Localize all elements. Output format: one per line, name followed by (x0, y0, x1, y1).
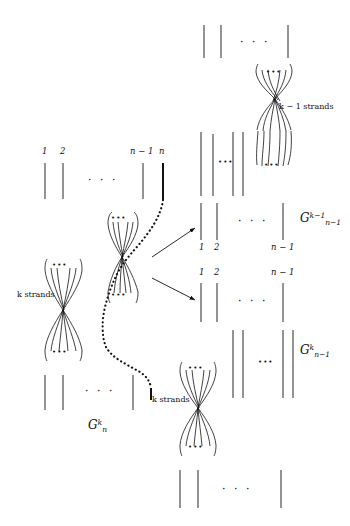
group-label-source-sub: n (102, 425, 107, 434)
index-label-n-minus-1-upper-right: n − 1 (271, 243, 294, 252)
group-label-target-lower-sub: n−1 (314, 350, 330, 359)
mini-ellipsis-left-braid-top: ••• (52, 261, 67, 269)
mini-ellipsis-bottom-braid-top: ••• (188, 364, 203, 372)
index-label-n-minus-1-lower-right: n − 1 (271, 268, 294, 277)
k-strands-braid-left (45, 259, 82, 361)
arrow-to-lower-target (152, 278, 195, 300)
mini-ellipsis-left-braid-bottom: ••• (52, 348, 67, 356)
k-strands-label-bottom: k strands (152, 396, 190, 404)
k-strands-label-left: k strands (17, 291, 55, 299)
k-minus-1-strands-label: k − 1 strands (279, 103, 334, 111)
index-label-1-upper-right: 1 (199, 243, 204, 252)
index-label-2-top-left: 2 (60, 147, 65, 156)
arrow-to-upper-target (152, 228, 195, 257)
group-label-target-upper-sub: n−1 (325, 218, 341, 227)
mini-ellipsis-center-braid-top: ••• (111, 214, 126, 222)
group-label-target-lower: Gkn−1 (300, 344, 330, 358)
index-label-1-lower-right: 1 (199, 268, 204, 277)
ellipsis-source-top: · · · (88, 174, 118, 187)
index-label-n-top-left: n (159, 147, 164, 156)
ellipsis-result-upper: · · · (238, 215, 268, 228)
mini-ellipsis-upper-right-funnel: ••• (264, 161, 279, 169)
group-label-target-upper-sup: k−1 (310, 211, 326, 220)
group-label-source-base: G (88, 418, 98, 432)
index-label-n-minus-1-top-left: n − 1 (130, 147, 153, 156)
group-label-target-upper-base: G (300, 211, 310, 225)
index-label-2-upper-right: 2 (214, 243, 219, 252)
ellipsis-top-right: · · · (240, 36, 270, 49)
center-braid (108, 212, 138, 303)
ellipsis-result-lower: · · · (238, 295, 268, 308)
mini-ellipsis-center-braid-bottom: ••• (111, 291, 126, 299)
ellipsis-bottom: · · · (222, 483, 252, 496)
mini-ellipsis-upper-right-block: ••• (218, 158, 233, 166)
group-label-target-upper: Gk−1n−1 (300, 212, 341, 226)
braid-diagram-figure: 1 2 n − 1 n · · · ••• ••• ••• ••• k stra… (0, 0, 350, 526)
group-label-source: Gkn (88, 419, 107, 433)
k-strands-braid-bottom (180, 362, 216, 456)
index-label-1-top-left: 1 (42, 147, 47, 156)
mini-ellipsis-k-minus-1-braid: ••• (266, 68, 281, 76)
ellipsis-source-bottom: · · · (85, 385, 115, 398)
mini-ellipsis-lower-right-block: ••• (258, 358, 273, 366)
index-label-2-lower-right: 2 (214, 268, 219, 277)
mini-ellipsis-bottom-braid-bottom: ••• (188, 443, 203, 451)
group-label-target-lower-base: G (300, 343, 310, 357)
